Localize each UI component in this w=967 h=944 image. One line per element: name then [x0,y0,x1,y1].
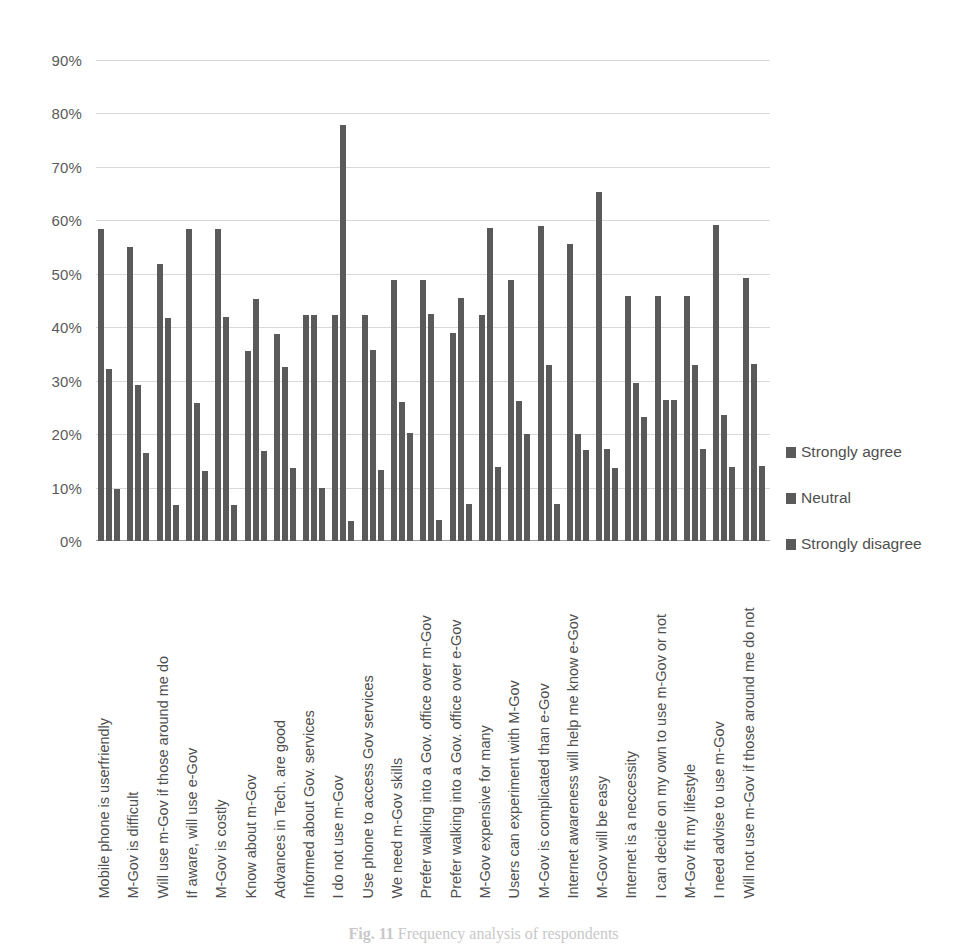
x-axis-tick-label: If aware, will use e-Gov [190,558,208,898]
bar-group [303,60,328,541]
y-axis-tick-label: 20% [0,426,82,443]
x-axis-tick-label-text: I can decide on my own to use m-Gov or n… [653,614,668,899]
bar [729,467,735,541]
y-axis-tick-label: 30% [0,372,82,389]
y-axis-tick-labels: 0%10%20%30%40%50%60%70%80%90% [0,60,90,541]
bar [546,365,552,541]
x-axis-tick-label-text: Will not use m-Gov if those around me do… [741,607,756,898]
y-axis-tick-label: 90% [0,52,82,69]
bar-group [127,60,152,541]
x-axis-tick-label-text: M-Gov is difficult [126,791,141,898]
bar [348,521,354,541]
bar [106,369,112,541]
x-axis-tick-label: I need advise to use m-Gov [717,558,735,898]
bar [245,351,251,541]
bar-group [157,60,182,541]
bar [378,470,384,541]
x-axis-tick-label: I do not use m-Gov [336,558,354,898]
bar-group [567,60,592,541]
bar-group [332,60,357,541]
bar [567,244,573,541]
x-axis-tick-label: Prefer walking into a Gov. office over e… [454,558,472,898]
legend-item[interactable]: Strongly disagree [786,535,961,553]
x-axis-tick-label: M-Gov is difficult [131,558,149,898]
x-axis-tick-label: Informed about Gov. services [307,558,325,898]
bar [479,315,485,541]
chart-legend: Strongly agreeNeutralStrongly disagree [786,443,961,581]
x-axis-tick-label-text: I do not use m-Gov [331,775,346,898]
bar [186,229,192,541]
x-axis-tick-label-text: M-Gov fit my lifestyle [683,763,698,898]
y-axis-tick-label: 0% [0,533,82,550]
bar [165,318,171,541]
x-axis-tick-label-text: M-Gov expensive for many [477,725,492,898]
bar [290,468,296,541]
bar [721,415,727,541]
bar [700,449,706,541]
x-axis-tick-label-text: Know about m-Gov [243,774,258,898]
bar [223,317,229,541]
bar [143,453,149,541]
bar-group [245,60,270,541]
bar [655,296,661,541]
x-axis-tick-labels: Mobile phone is userfriendlyM-Gov is dif… [96,548,770,898]
bar [487,228,493,541]
x-axis-tick-label-text: Internet is a neccessity [624,751,639,899]
bar [370,350,376,541]
x-axis-tick-label-text: We need m-Gov skills [390,757,405,898]
x-axis-tick-label-text: Will use m-Gov if those around me do [155,655,170,898]
bar [215,229,221,541]
bar [407,433,413,541]
bar-group [684,60,709,541]
x-axis-tick-label: M-Gov is costly [219,558,237,898]
x-axis-tick-label: Will use m-Gov if those around me do [161,558,179,898]
y-axis-tick-label: 10% [0,479,82,496]
bar [663,400,669,541]
bar [641,417,647,541]
bar [202,471,208,541]
bar [633,383,639,541]
x-axis-tick-label-text: M-Gov is complicated than e-Gov [536,683,551,898]
bar [428,314,434,541]
figure-number: Fig. 11 [348,925,393,942]
bar [751,364,757,541]
figure-caption-text: Frequency analysis of respondents [398,925,619,942]
legend-item[interactable]: Neutral [786,489,961,507]
legend-swatch-icon [786,493,796,504]
bar [98,229,104,541]
bar [692,365,698,541]
bar [303,315,309,541]
x-axis-tick-label-text: Advances in Tech. are good [272,719,287,898]
bar-group [362,60,387,541]
x-axis-tick-label-text: Use phone to access Gov services [360,675,375,898]
bar [420,280,426,541]
bar [282,367,288,541]
legend-item-label: Strongly agree [801,443,902,461]
bar [340,125,346,541]
bar [625,296,631,541]
bar [466,504,472,541]
bar-group [420,60,445,541]
bar [495,467,501,541]
x-axis-tick-label: Users can experiment with M-Gov [512,558,530,898]
bar [311,315,317,541]
bar [743,278,749,541]
x-axis-tick-label: I can decide on my own to use m-Gov or n… [659,558,677,898]
bar [157,264,163,541]
x-axis-tick-label: M-Gov will be easy [600,558,618,898]
bar [173,505,179,541]
x-axis-tick-label: Mobile phone is userfriendly [102,558,120,898]
bar [604,449,610,541]
bar-group [538,60,563,541]
bar [554,504,560,541]
x-axis-tick-label-text: Prefer walking into a Gov. office over e… [448,619,463,898]
bar-group [713,60,738,541]
x-axis-tick-label-text: M-Gov is costly [214,799,229,898]
bar [114,489,120,541]
legend-item-label: Strongly disagree [801,535,922,553]
x-axis-tick-label-text: M-Gov will be easy [595,776,610,898]
legend-item[interactable]: Strongly agree [786,443,961,461]
bar [319,488,325,541]
x-axis-tick-label-text: Users can experiment with M-Gov [507,680,522,898]
legend-item-label: Neutral [801,489,851,507]
